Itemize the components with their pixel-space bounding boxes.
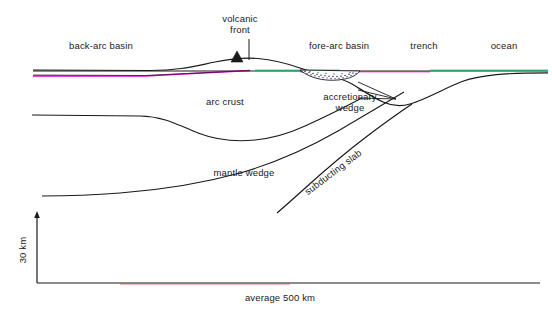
label-accretionary-wedge: accretionary wedge xyxy=(323,91,377,113)
label-mantle-wedge: mantle wedge xyxy=(214,167,275,178)
label-volcanic-front: volcanic front xyxy=(222,13,258,35)
label-scale-horizontal-average-500km: average 500 km xyxy=(245,292,315,303)
topographic-surface-line xyxy=(33,58,548,106)
label-arc-crust: arc crust xyxy=(206,96,244,107)
volcano-triangle-icon xyxy=(231,51,243,62)
scale-bar-arrowhead-icon xyxy=(34,211,40,218)
accretionary-wedge-body xyxy=(300,70,360,80)
label-trench: trench xyxy=(410,40,437,51)
label-scale-vertical-30km: 30 km xyxy=(17,237,28,264)
label-volcanic-front-line1: volcanic xyxy=(222,13,258,24)
label-volcanic-front-line2: front xyxy=(230,24,250,35)
label-ocean: ocean xyxy=(491,40,518,51)
label-back-arc-basin: back-arc basin xyxy=(69,40,133,51)
scale-bar xyxy=(34,211,540,284)
label-accretionary-wedge-line2: wedge xyxy=(336,102,365,113)
subduction-cross-section-diagram: back-arc basin volcanic front fore-arc b… xyxy=(0,0,552,316)
label-accretionary-wedge-line1: accretionary xyxy=(323,91,377,102)
label-fore-arc-basin: fore-arc basin xyxy=(309,40,369,51)
moho-base-of-arc-crust-line xyxy=(32,98,362,141)
